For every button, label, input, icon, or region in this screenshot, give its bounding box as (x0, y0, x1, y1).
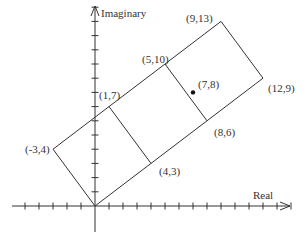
imaginary-axis-label: Imaginary (101, 7, 147, 19)
real-axis-label: Real (253, 189, 273, 201)
label-8-6: (8,6) (214, 126, 235, 139)
label-12-9: (12,9) (268, 82, 295, 95)
rectangle-shape (53, 21, 263, 206)
label-5-10: (5,10) (142, 53, 169, 66)
label-neg3-4: (-3,4) (25, 143, 50, 156)
label-7-8: (7,8) (198, 78, 219, 91)
label-9-13: (9,13) (186, 12, 213, 25)
outer-rectangle (53, 21, 263, 206)
point-labels: (9,13) (5,10) (1,7) (-3,4) (12,9) (8,6) … (25, 12, 295, 178)
diagram-svg: Real Imaginary (9,13) (5,10) (1,7) (-3,4… (0, 0, 307, 242)
label-1-7: (1,7) (99, 89, 120, 102)
point-dot-icon (191, 90, 195, 94)
label-4-3: (4,3) (159, 165, 180, 178)
axes: Real Imaginary (12, 6, 291, 232)
complex-plane-diagram: Real Imaginary (9,13) (5,10) (1,7) (-3,4… (0, 0, 307, 242)
inner-line-1 (109, 107, 151, 164)
inner-line-2 (165, 64, 207, 121)
